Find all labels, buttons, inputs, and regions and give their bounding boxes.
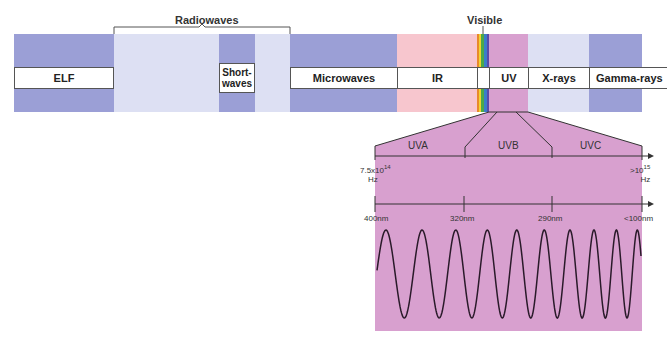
freq-start-label: 7.5x1014 Hz: [360, 164, 391, 184]
uva-label: UVA: [408, 140, 428, 151]
uv-detail-graphic: [0, 0, 667, 341]
uvb-label: UVB: [498, 140, 519, 151]
freq-end-label: >1015 Hz: [630, 164, 650, 184]
uvc-label: UVC: [580, 140, 601, 151]
wl-320: 320nm: [450, 214, 474, 223]
wl-290: 290nm: [538, 214, 562, 223]
wl-400: 400nm: [364, 214, 388, 223]
wl-100: <100nm: [624, 214, 653, 223]
